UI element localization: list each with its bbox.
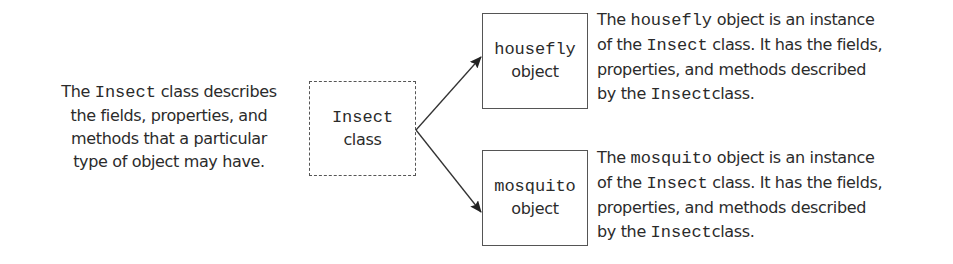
description-line: The housefly object is an instance — [597, 8, 937, 33]
code-term: Insect — [95, 83, 156, 102]
text-segment: The — [597, 10, 630, 29]
description-line: of the Insect class. It has the fields, — [597, 33, 937, 58]
code-term: housefly — [630, 11, 712, 30]
text-segment: of the — [597, 35, 646, 54]
class-description: The Insect class describes the fields, p… — [44, 80, 294, 173]
description-line: of the Insect class. It has the fields, — [597, 171, 937, 196]
class-name: Insect — [332, 107, 393, 129]
mosquito-description: The mosquito object is an instance of th… — [597, 146, 937, 245]
text-segment: properties, and methods described — [597, 198, 866, 217]
text-segment: The — [61, 82, 94, 101]
object-kind-label: object — [511, 198, 559, 220]
arrow-to-housefly — [416, 57, 481, 130]
code-term: Insect — [646, 174, 707, 193]
text-segment: the fields, properties, and — [71, 106, 268, 125]
text-segment: by the — [597, 84, 651, 103]
description-line: properties, and methods described — [597, 58, 937, 82]
text-segment: The — [597, 148, 630, 167]
text-segment: class. It has the fields, — [708, 173, 883, 192]
code-term: Insect — [651, 223, 712, 242]
description-line: by the Insectclass. — [597, 82, 937, 107]
text-segment: type of object may have. — [73, 152, 265, 171]
text-segment: of the — [597, 173, 646, 192]
class-description-line: The Insect class describes — [44, 80, 294, 104]
housefly-description: The housefly object is an instance of th… — [597, 8, 937, 107]
object-name: housefly — [494, 39, 576, 61]
text-segment: class describes — [156, 82, 277, 101]
description-line: by the Insectclass. — [597, 220, 937, 245]
text-segment: object is an instance — [712, 10, 874, 29]
mosquito-object-box: mosquito object — [482, 150, 588, 246]
description-line: properties, and methods described — [597, 196, 937, 220]
text-segment: properties, and methods described — [597, 60, 866, 79]
object-name: mosquito — [494, 176, 576, 198]
text-segment: by the — [597, 222, 651, 241]
code-term: Insect — [651, 85, 712, 104]
code-term: mosquito — [630, 149, 712, 168]
text-segment: methods that a particular — [71, 129, 267, 148]
code-term: Insect — [646, 36, 707, 55]
class-description-line: methods that a particular — [44, 127, 294, 150]
object-kind-label: object — [511, 61, 559, 83]
text-segment: class. — [712, 222, 755, 241]
text-segment: class. It has the fields, — [708, 35, 883, 54]
class-description-line: type of object may have. — [44, 150, 294, 173]
text-segment: class. — [712, 84, 755, 103]
housefly-object-box: housefly object — [482, 13, 588, 109]
arrow-to-mosquito — [416, 130, 481, 212]
class-kind-label: class — [343, 129, 381, 151]
description-line: The mosquito object is an instance — [597, 146, 937, 171]
class-description-line: the fields, properties, and — [44, 104, 294, 127]
insect-class-box: Insect class — [309, 81, 416, 176]
text-segment: object is an instance — [712, 148, 874, 167]
